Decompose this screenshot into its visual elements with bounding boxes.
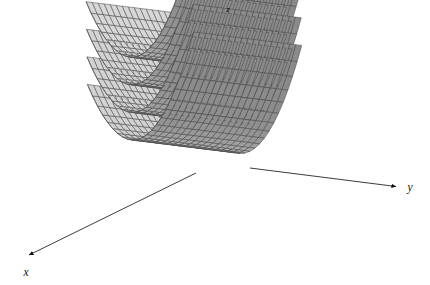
x-axis-line-front (29, 173, 196, 255)
x-axis-label: x (22, 266, 29, 278)
plot-canvas: x y z (0, 0, 430, 285)
y-axis-line (250, 168, 396, 187)
surface-stack (86, 0, 302, 153)
surface-plot-figure: x y z (0, 0, 430, 285)
y-axis-label: y (406, 181, 413, 194)
axes-front (29, 168, 396, 255)
z-axis-label: z (225, 4, 230, 14)
